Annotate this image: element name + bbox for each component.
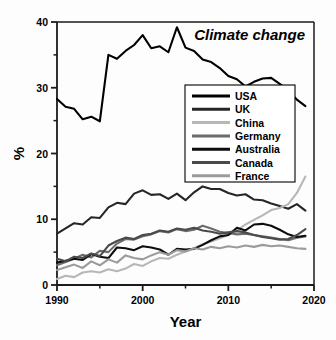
legend-label-china: China xyxy=(235,117,264,129)
x-tick-label: 2020 xyxy=(302,294,326,306)
legend-label-canada: Canada xyxy=(235,157,273,169)
y-tick-label: 0 xyxy=(42,279,48,291)
legend-label-australia: Australia xyxy=(235,143,280,155)
y-tick-label: 10 xyxy=(36,213,48,225)
y-tick-label: 40 xyxy=(36,16,48,28)
legend-label-germany: Germany xyxy=(235,130,281,142)
chart-title-group: Climate change xyxy=(194,26,305,43)
legend-label-uk: UK xyxy=(235,103,251,115)
legend-label-france: France xyxy=(235,170,270,182)
x-tick-label: 2000 xyxy=(131,294,155,306)
x-tick-label: 2010 xyxy=(217,294,241,306)
chart-title: Climate change xyxy=(194,26,305,43)
legend-label-usa: USA xyxy=(235,90,258,102)
y-tick-label: 30 xyxy=(36,82,48,94)
line-chart: 0102030401990200020102020%Year Climate c… xyxy=(0,0,336,340)
chart-figure: 0102030401990200020102020%Year Climate c… xyxy=(0,0,336,340)
x-axis-title: Year xyxy=(170,313,202,330)
y-axis-title: % xyxy=(10,147,27,160)
chart-legend: USAUKChinaGermanyAustraliaCanadaFrance xyxy=(185,85,295,182)
x-tick-label: 1990 xyxy=(45,294,69,306)
y-tick-label: 20 xyxy=(36,148,48,160)
